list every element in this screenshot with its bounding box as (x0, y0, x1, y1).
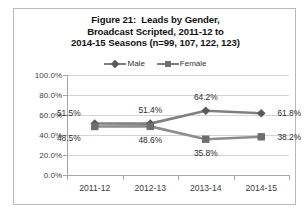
series-line-female (95, 126, 262, 139)
legend-swatch-female-square-icon (157, 59, 179, 68)
y-axis-tick-label: 80.0% (39, 91, 62, 100)
chart-legend: Male Female (14, 59, 297, 68)
legend-swatch-male-diamond-icon (104, 59, 126, 68)
data-point-marker-female[interactable] (202, 136, 209, 143)
series-line-male (95, 111, 262, 124)
data-label-female: 38.2% (277, 132, 301, 142)
data-point-marker-male[interactable] (201, 107, 210, 116)
data-label-male: 51.5% (57, 108, 81, 118)
chart-title-line-3: 2014-15 Seasons (n=99, 107, 122, 123) (14, 37, 297, 49)
x-axis-tick (178, 175, 179, 180)
plot-area: 0.0%20.0%40.0%60.0%80.0%100.0% 2011-1220… (67, 75, 289, 175)
x-axis-category-label: 2012-13 (134, 183, 166, 193)
data-point-marker-male[interactable] (257, 109, 266, 118)
y-axis-tick-label: 100.0% (35, 71, 62, 80)
legend-label-female: Female (180, 59, 207, 68)
series-lines (67, 75, 289, 175)
x-axis-tick (289, 175, 290, 180)
x-axis-category-label: 2011-12 (79, 183, 110, 193)
legend-label-male: Male (127, 59, 144, 68)
chart-title: Figure 21: Leads by Gender, Broadcast Sc… (14, 14, 297, 49)
data-label-female: 48.5% (57, 133, 81, 143)
data-point-marker-female[interactable] (91, 123, 98, 130)
data-label-male: 61.8% (277, 108, 301, 118)
y-axis-tick-label: 0.0% (44, 171, 62, 180)
figure-frame: Figure 21: Leads by Gender, Broadcast Sc… (13, 8, 296, 205)
data-label-male: 64.2% (194, 92, 218, 102)
x-axis-tick (67, 175, 68, 180)
chart-title-line-1: Figure 21: Leads by Gender, (14, 14, 297, 26)
data-point-marker-female[interactable] (147, 123, 154, 130)
x-axis-tick (123, 175, 124, 180)
legend-item-male[interactable]: Male (104, 59, 144, 68)
data-point-marker-female[interactable] (258, 133, 265, 140)
x-axis-category-label: 2013-14 (190, 183, 222, 193)
data-label-female: 35.8% (194, 148, 218, 158)
legend-item-female[interactable]: Female (157, 59, 207, 68)
chart-title-line-2: Broadcast Scripted, 2011-12 to (14, 26, 297, 38)
x-axis-category-label: 2014-15 (245, 183, 277, 193)
data-label-female: 48.6% (138, 135, 162, 145)
y-axis-tick-label: 20.0% (39, 151, 62, 160)
data-label-male: 51.4% (138, 105, 162, 115)
x-axis-tick (234, 175, 235, 180)
